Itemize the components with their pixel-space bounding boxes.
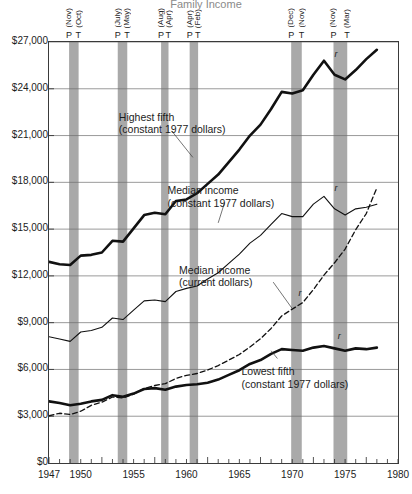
x-axis-label-1970: 1970	[281, 470, 303, 480]
y-axis-label-18000: $18,000	[4, 176, 48, 186]
revision-mark-4: r	[338, 332, 341, 341]
y-axis-label-21000: $21,000	[4, 130, 48, 140]
y-axis-label-6000: $6,000	[4, 363, 48, 373]
annotation-highest-fifth-line1: Highest fifth	[119, 111, 226, 124]
recession-band-3	[161, 42, 168, 463]
recession-5-trough-month: (Nov)	[298, 8, 306, 28]
recession-4-trough-month: (Feb)	[194, 9, 202, 28]
recession-5-trough-marker: T	[299, 31, 305, 40]
x-axis-label-1947: 1947	[38, 470, 60, 480]
annotation-median-constant-line1: Median income	[167, 184, 274, 197]
annotation-highest-fifth-line2: (constant 1977 dollars)	[119, 123, 226, 136]
recession-6-peak-marker: P	[330, 31, 336, 40]
recession-3-trough-marker: T	[166, 31, 172, 40]
recession-band-5	[291, 42, 302, 463]
family-income-chart: Family Income (Nov)P(Oct)T(July)P(May)T(…	[0, 0, 412, 494]
recession-6-trough-marker: T	[344, 31, 350, 40]
revision-mark-2: r	[335, 184, 338, 193]
plot-svg	[49, 42, 398, 463]
recession-1-peak-month: (Nov)	[65, 8, 73, 28]
x-axis-label-1975: 1975	[334, 470, 356, 480]
recession-3-peak-marker: P	[158, 31, 164, 40]
x-axis-label-1980: 1980	[387, 470, 409, 480]
y-axis-label-0: $0	[4, 457, 48, 467]
recession-5-peak-month: (Dec)	[287, 8, 295, 28]
x-axis-label-1965: 1965	[228, 470, 250, 480]
x-axis-label-1955: 1955	[122, 470, 144, 480]
recession-1-trough-marker: T	[76, 31, 82, 40]
annotation-median-current: Median income(current dollars)	[179, 264, 253, 289]
annotation-median-constant: Median income(constant 1977 dollars)	[167, 184, 274, 209]
x-axis-labels: 19471950195519601965197019751980	[0, 468, 412, 486]
annotation-lowest-fifth: Lowest fifth(constant 1977 dollars)	[241, 365, 348, 390]
y-axis-label-24000: $24,000	[4, 83, 48, 93]
recession-band-2	[118, 42, 128, 463]
annotation-median-constant-line2: (constant 1977 dollars)	[167, 197, 274, 210]
recession-5-peak-marker: P	[288, 31, 294, 40]
annotation-leader-3	[273, 282, 292, 309]
recession-2-trough-month: (May)	[123, 8, 131, 28]
revision-mark-1: r	[335, 50, 338, 59]
recession-4-trough-marker: T	[195, 31, 201, 40]
y-axis-label-3000: $3,000	[4, 410, 48, 420]
y-axis-label-27000: $27,000	[4, 36, 48, 46]
recession-1-peak-marker: P	[66, 31, 72, 40]
annotation-median-current-line2: (current dollars)	[179, 276, 253, 289]
y-axis-label-9000: $9,000	[4, 317, 48, 327]
recession-band-1	[69, 42, 79, 463]
y-axis-label-15000: $15,000	[4, 223, 48, 233]
series-line-1	[49, 50, 377, 265]
recession-6-trough-month: (Mar)	[343, 9, 351, 28]
annotation-lowest-fifth-line1: Lowest fifth	[241, 365, 348, 378]
recession-6-peak-month: (Nov)	[329, 8, 337, 28]
recession-1-trough-month: (Oct)	[75, 10, 83, 28]
recession-3-trough-month: (Apr)	[165, 10, 173, 28]
annotation-highest-fifth: Highest fifth(constant 1977 dollars)	[119, 111, 226, 136]
recession-2-peak-marker: P	[115, 31, 121, 40]
recession-marker-labels: (Nov)P(Oct)T(July)P(May)T(Aug)P(Apr)T(Ap…	[0, 0, 412, 41]
y-axis-labels: $0$3,000$6,000$9,000$12,000$15,000$18,00…	[0, 41, 48, 464]
revision-mark-3: r	[299, 289, 302, 298]
x-axis-label-1950: 1950	[70, 470, 92, 480]
recession-band-4	[190, 42, 198, 463]
x-axis-label-1960: 1960	[175, 470, 197, 480]
y-axis-label-12000: $12,000	[4, 270, 48, 280]
plot-area	[48, 41, 399, 464]
recession-2-trough-marker: T	[124, 31, 130, 40]
annotation-lowest-fifth-line2: (constant 1977 dollars)	[241, 378, 348, 391]
annotation-median-current-line1: Median income	[179, 264, 253, 277]
recession-band-6	[333, 42, 347, 463]
recession-2-peak-month: (July)	[114, 8, 122, 28]
recession-4-peak-marker: P	[187, 31, 193, 40]
